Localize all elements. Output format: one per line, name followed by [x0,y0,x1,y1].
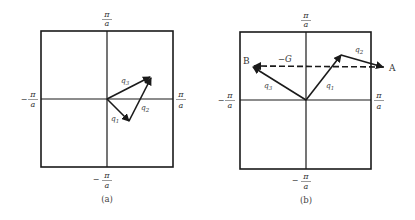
label-bottom: − π a [93,171,112,190]
svg-text:a: a [179,101,184,110]
caption-a: (a) [101,194,113,204]
svg-text:a: a [228,101,233,110]
svg-text:π: π [103,10,110,19]
svg-text:a: a [304,20,309,29]
svg-text:π: π [29,90,36,99]
svg-text:π: π [302,11,309,20]
vector-q3 [253,67,306,100]
label-left: − π a [218,91,235,110]
svg-text:π: π [302,172,309,181]
svg-text:−: − [218,96,225,105]
label-q1: q1 [326,81,334,91]
svg-text:π: π [103,171,110,180]
svg-text:−: − [21,95,28,104]
svg-text:a: a [377,102,382,111]
point-A-label: A [388,63,396,73]
label-top: π a [102,10,112,28]
svg-text:−: − [93,175,100,184]
point-B-label: B [243,56,250,66]
svg-text:a: a [31,100,36,109]
svg-text:a: a [105,19,110,28]
label-q1: q1 [111,114,119,124]
caption-b: (b) [300,195,312,205]
svg-text:π: π [177,90,184,99]
label-top: π a [301,11,311,29]
label-right: π a [176,90,186,110]
label-left: − π a [21,90,38,109]
label-q2: q2 [141,103,150,113]
label-right: π a [374,91,384,111]
svg-text:−: − [292,176,299,185]
svg-text:π: π [226,91,233,100]
svg-text:a: a [105,181,110,190]
label-bottom: − π a [292,172,311,191]
brillouin-zone-figure: π a − π a − π a π a q1 q2 q3 [0,0,415,220]
label-q3: q3 [121,76,130,86]
vector-minus-G [254,66,384,67]
label-q3: q3 [264,81,273,91]
label-q2: q2 [355,45,364,55]
panel-b: π a − π a − π a π a q1 q2 q [218,11,396,205]
svg-text:π: π [375,91,382,100]
panel-a: π a − π a − π a π a q1 q2 q3 [21,10,186,204]
vector-q1 [306,55,341,100]
vector-q2 [341,55,383,67]
minus-G-label: −G [278,54,292,64]
svg-text:a: a [304,182,309,191]
